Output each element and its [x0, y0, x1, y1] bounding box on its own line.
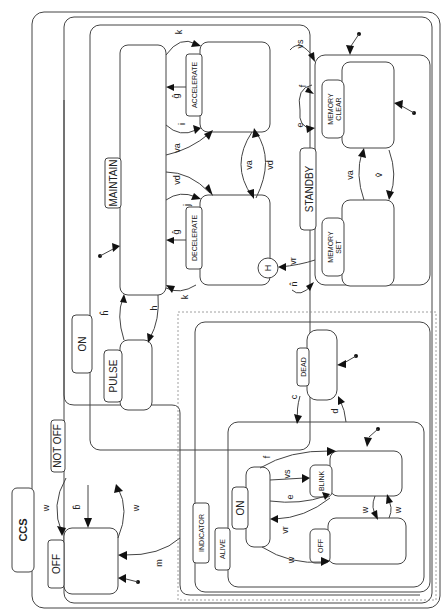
- svg-text:ĥ: ĥ: [99, 310, 110, 315]
- svg-text:ALIVE: ALIVE: [219, 539, 226, 559]
- svg-text:vs: vs: [282, 469, 292, 479]
- svg-text:n̂: n̂: [289, 281, 299, 286]
- svg-text:vr: vr: [280, 526, 290, 534]
- svg-text:m: m: [154, 559, 164, 567]
- svg-text:b̂: b̂: [72, 504, 82, 509]
- svg-text:w: w: [131, 504, 141, 512]
- state-ind-on: [246, 467, 270, 547]
- state-accelerate: [200, 42, 270, 132]
- svg-text:DEAD: DEAD: [300, 357, 307, 376]
- svg-text:vr: vr: [288, 257, 298, 265]
- svg-text:INDICATOR: INDICATOR: [198, 514, 205, 552]
- svg-text:w: w: [360, 506, 370, 514]
- svg-text:w: w: [286, 556, 296, 564]
- state-maintain: [120, 45, 166, 295]
- svg-text:c: c: [289, 394, 299, 399]
- off-label: OFF: [51, 554, 62, 574]
- svg-text:MEMORY: MEMORY: [327, 231, 334, 263]
- svg-text:vd: vd: [172, 175, 182, 185]
- svg-text:vs: vs: [295, 39, 305, 49]
- statechart-diagram: CCS NOT OFF OFF w b̂ w m ON MAINTAIN ACC…: [0, 0, 446, 615]
- svg-text:e: e: [295, 122, 305, 127]
- maintain-label: MAINTAIN: [108, 159, 119, 206]
- svg-text:BLINK: BLINK: [318, 471, 325, 492]
- svg-text:k: k: [180, 294, 190, 299]
- svg-text:h: h: [149, 305, 159, 310]
- svg-text:d: d: [330, 408, 340, 413]
- state-memory-clear: [342, 62, 394, 148]
- svg-text:i: i: [177, 123, 187, 125]
- svg-text:v̂: v̂: [374, 172, 384, 177]
- state-blink: [330, 451, 402, 496]
- svg-text:OFF: OFF: [317, 539, 324, 553]
- svg-text:w: w: [393, 506, 403, 514]
- not-off-label: NOT OFF: [52, 424, 63, 468]
- svg-text:ĝ: ĝ: [171, 93, 181, 98]
- state-ind-off: [328, 518, 406, 564]
- svg-text:va: va: [244, 160, 254, 170]
- on-label: ON: [77, 337, 88, 352]
- svg-text:H: H: [263, 265, 273, 272]
- state-memory-set: [342, 200, 394, 286]
- svg-text:f: f: [262, 455, 272, 458]
- svg-text:va: va: [345, 170, 355, 180]
- svg-text:vd: vd: [265, 160, 275, 170]
- svg-text:MEMORY: MEMORY: [327, 93, 334, 125]
- state-off: [64, 528, 118, 594]
- svg-text:k: k: [174, 29, 184, 34]
- svg-text:va: va: [172, 143, 182, 153]
- svg-text:j: j: [182, 204, 192, 207]
- svg-text:CLEAR: CLEAR: [335, 97, 342, 120]
- svg-text:ACCELERATE: ACCELERATE: [191, 62, 198, 108]
- state-dead: [307, 330, 337, 400]
- svg-text:w: w: [41, 504, 51, 512]
- svg-text:f: f: [298, 84, 308, 87]
- ccs-label: CCS: [17, 518, 29, 541]
- svg-text:e: e: [285, 494, 295, 499]
- svg-text:SET: SET: [335, 239, 342, 253]
- state-pulse: [120, 340, 152, 410]
- svg-text:ĝ: ĝ: [171, 229, 181, 234]
- svg-text:PULSE: PULSE: [108, 359, 119, 392]
- svg-text:DECELERATE: DECELERATE: [191, 215, 198, 261]
- svg-text:STANDBY: STANDBY: [304, 165, 315, 212]
- svg-text:ON: ON: [235, 501, 246, 516]
